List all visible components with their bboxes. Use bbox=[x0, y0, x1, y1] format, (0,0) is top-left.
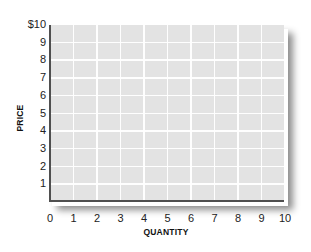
gridline-horizontal bbox=[51, 183, 284, 185]
y-tick-label: 1 bbox=[16, 177, 46, 189]
gridline-horizontal bbox=[51, 166, 284, 168]
gridline-horizontal bbox=[51, 148, 284, 150]
y-tick-label: 2 bbox=[16, 160, 46, 172]
y-tick-label: $10 bbox=[16, 18, 46, 30]
y-tick-label: 9 bbox=[16, 36, 46, 48]
y-axis-label: PRICE bbox=[15, 98, 25, 138]
plot-area bbox=[49, 25, 284, 202]
y-tick-label: 8 bbox=[16, 53, 46, 65]
gridline-horizontal bbox=[51, 77, 284, 79]
y-tick-label: 3 bbox=[16, 142, 46, 154]
price-quantity-chart: 123456789$10 012345678910 QUANTITY PRICE bbox=[0, 0, 311, 252]
x-tick-label: 2 bbox=[87, 212, 107, 224]
x-tick-label: 10 bbox=[275, 212, 295, 224]
y-tick-label: 7 bbox=[16, 71, 46, 83]
x-tick-label: 0 bbox=[40, 212, 60, 224]
gridline-horizontal bbox=[51, 59, 284, 61]
gridline-horizontal bbox=[51, 42, 284, 44]
x-tick-label: 4 bbox=[134, 212, 154, 224]
gridline-horizontal bbox=[51, 95, 284, 97]
x-tick-label: 9 bbox=[252, 212, 272, 224]
x-tick-label: 8 bbox=[228, 212, 248, 224]
gridline-horizontal bbox=[51, 113, 284, 115]
x-axis-label: QUANTITY bbox=[126, 227, 206, 237]
gridline-horizontal bbox=[51, 130, 284, 132]
x-tick-label: 7 bbox=[205, 212, 225, 224]
x-tick-label: 5 bbox=[158, 212, 178, 224]
x-tick-label: 6 bbox=[181, 212, 201, 224]
x-tick-label: 1 bbox=[64, 212, 84, 224]
x-tick-label: 3 bbox=[111, 212, 131, 224]
